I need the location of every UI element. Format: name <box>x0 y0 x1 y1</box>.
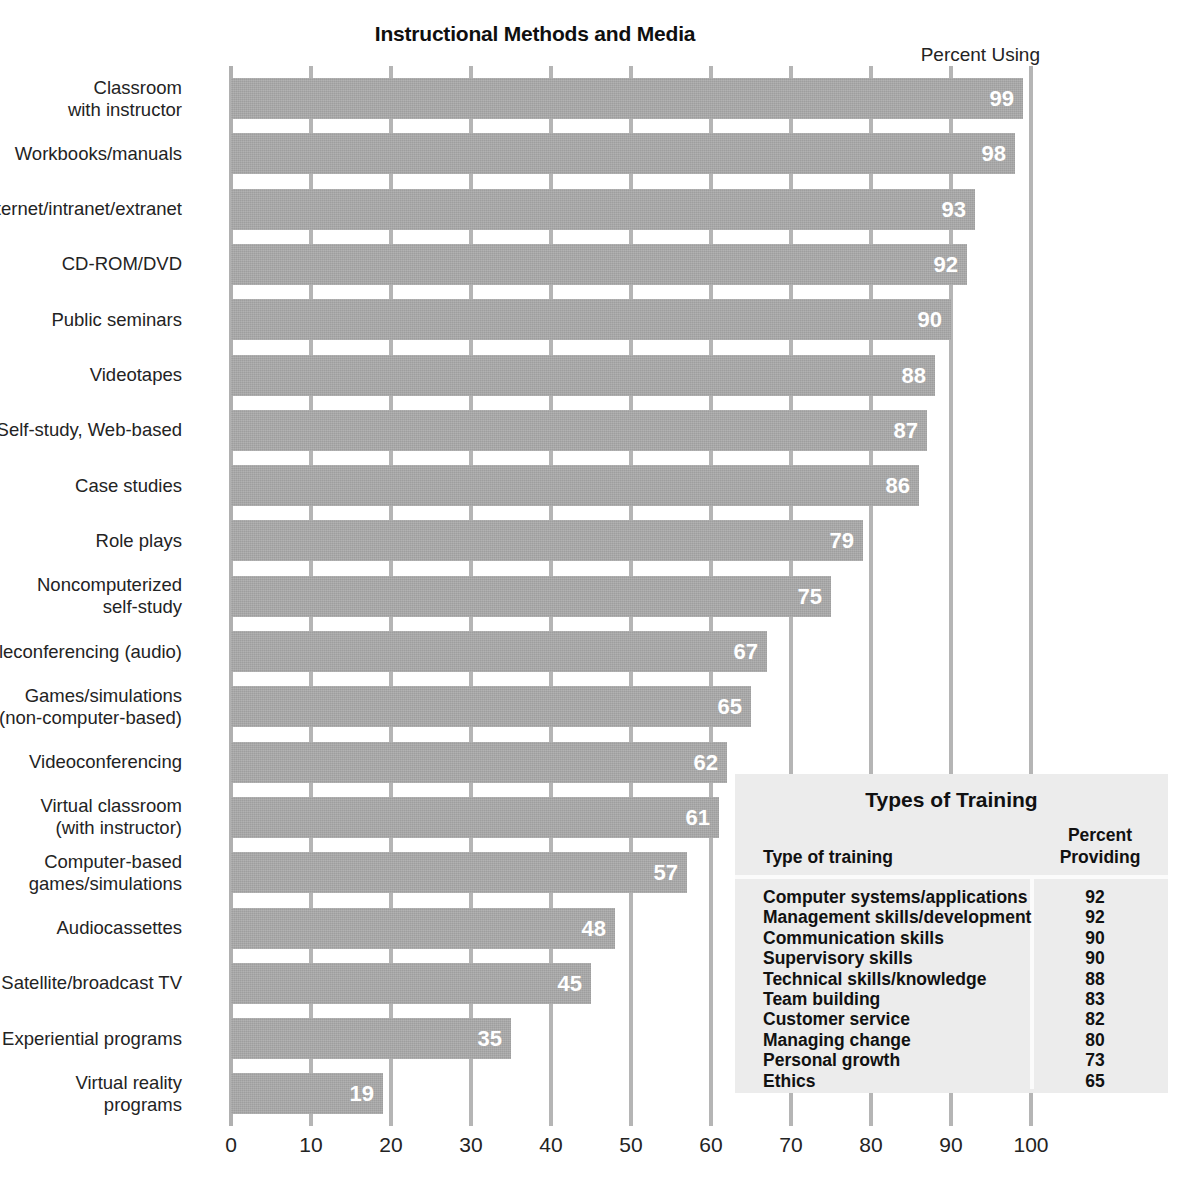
category-label: Experiential programs <box>0 1028 182 1050</box>
table-row-value: 80 <box>1035 1030 1155 1051</box>
category-label: Computer-based games/simulations <box>0 851 182 895</box>
x-tick-label: 90 <box>921 1133 981 1157</box>
category-label: Games/simulations (non-computer-based) <box>0 685 182 729</box>
bar-value-label: 62 <box>231 742 727 783</box>
bar-value-label: 88 <box>231 355 935 396</box>
x-tick-label: 80 <box>841 1133 901 1157</box>
bar-value-label: 79 <box>231 520 863 561</box>
bar-value-label: 48 <box>231 908 615 949</box>
table-row-value: 65 <box>1035 1071 1155 1092</box>
category-label: Videoconferencing <box>0 751 182 773</box>
table-row-label: Team building <box>763 989 880 1010</box>
table-row-value: 92 <box>1035 887 1155 908</box>
x-tick-label: 50 <box>601 1133 661 1157</box>
table-row-value: 83 <box>1035 989 1155 1010</box>
bar-value-label: 45 <box>231 963 591 1004</box>
table-header-type: Type of training <box>763 847 893 868</box>
x-tick-label: 0 <box>201 1133 261 1157</box>
bar-value-label: 90 <box>231 299 951 340</box>
category-label: Virtual reality programs <box>0 1072 182 1116</box>
category-label: Noncomputerized self-study <box>0 574 182 618</box>
bar-value-label: 75 <box>231 576 831 617</box>
x-tick-label: 20 <box>361 1133 421 1157</box>
category-label: CD-ROM/DVD <box>0 253 182 275</box>
table-row-label: Communication skills <box>763 928 944 949</box>
bar-value-label: 99 <box>231 78 1023 119</box>
table-row-value: 82 <box>1035 1009 1155 1030</box>
x-tick-label: 100 <box>1001 1133 1061 1157</box>
x-tick-label: 10 <box>281 1133 341 1157</box>
table-row-label: Managing change <box>763 1030 911 1051</box>
x-tick-label: 60 <box>681 1133 741 1157</box>
table-row-value: 90 <box>1035 948 1155 969</box>
types-of-training-table: Types of Training Type of training Perce… <box>735 774 1168 1093</box>
table-header-percent: Percent Providing <box>1035 824 1165 868</box>
category-label: Audiocassettes <box>0 917 182 939</box>
chart-canvas: Instructional Methods and Media Percent … <box>0 0 1190 1190</box>
bar-value-label: 87 <box>231 410 927 451</box>
category-label: Internet/intranet/extranet <box>0 198 182 220</box>
table-row-value: 73 <box>1035 1050 1155 1071</box>
table-row-label: Personal growth <box>763 1050 900 1071</box>
bar-value-label: 67 <box>231 631 767 672</box>
table-row-label: Supervisory skills <box>763 948 913 969</box>
bar-value-label: 57 <box>231 852 687 893</box>
category-label: Case studies <box>0 475 182 497</box>
bar-value-label: 35 <box>231 1018 511 1059</box>
category-label: Self-study, Web-based <box>0 419 182 441</box>
bar-value-label: 61 <box>231 797 719 838</box>
category-label: Classroom with instructor <box>0 77 182 121</box>
table-row-label: Technical skills/knowledge <box>763 969 986 990</box>
category-label: Workbooks/manuals <box>0 143 182 165</box>
category-label: Virtual classroom (with instructor) <box>0 795 182 839</box>
x-tick-label: 30 <box>441 1133 501 1157</box>
table-row-label: Customer service <box>763 1009 910 1030</box>
x-tick-label: 40 <box>521 1133 581 1157</box>
bar-value-label: 19 <box>231 1073 383 1114</box>
table-row-value: 92 <box>1035 907 1155 928</box>
bar-value-label: 93 <box>231 189 975 230</box>
x-tick-label: 70 <box>761 1133 821 1157</box>
bar-value-label: 86 <box>231 465 919 506</box>
table-row-label: Ethics <box>763 1071 816 1092</box>
category-label: Videotapes <box>0 364 182 386</box>
table-row-label: Computer systems/applications <box>763 887 1028 908</box>
category-label: Satellite/broadcast TV <box>0 972 182 994</box>
category-label: Public seminars <box>0 309 182 331</box>
bar-value-label: 98 <box>231 133 1015 174</box>
category-label: Role plays <box>0 530 182 552</box>
bar-value-label: 65 <box>231 686 751 727</box>
table-row-label: Management skills/development <box>763 907 1031 928</box>
table-header-divider <box>735 875 1168 879</box>
table-row-value: 88 <box>1035 969 1155 990</box>
category-label: Teleconferencing (audio) <box>0 641 182 663</box>
table-title: Types of Training <box>735 788 1168 812</box>
bar-value-label: 92 <box>231 244 967 285</box>
table-row-value: 90 <box>1035 928 1155 949</box>
